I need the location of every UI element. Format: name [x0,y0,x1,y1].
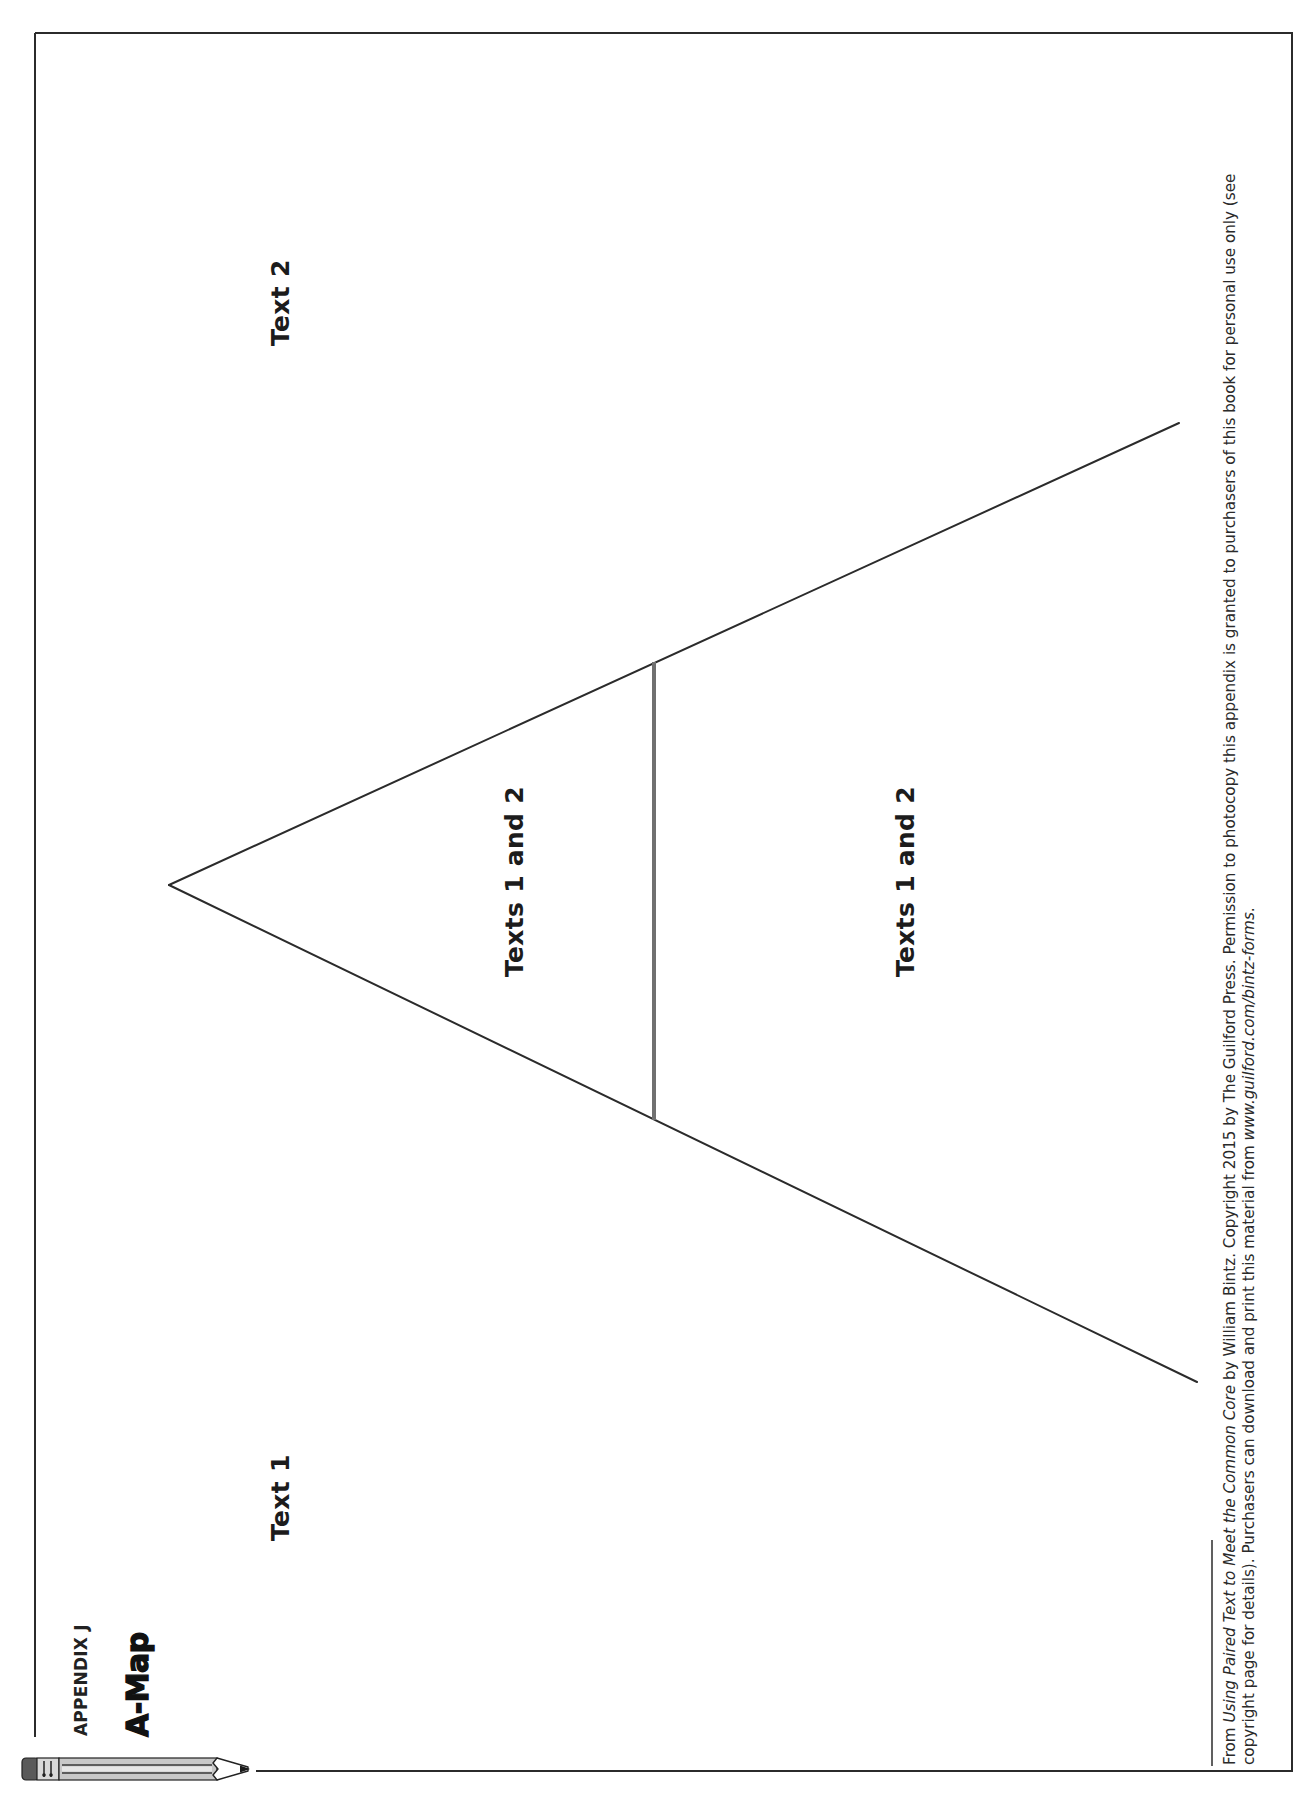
footer-book-title: Using Paired Text to Meet the Common Cor… [1221,1385,1239,1723]
label-texts-1-and-2-outer: Texts 1 and 2 [891,786,920,977]
footer-line2-suffix: . [1240,907,1258,912]
a-map-upper-arm [169,423,1179,885]
footer-copyright-line-1: From Using Paired Text to Meet the Commo… [1221,174,1239,1765]
label-text-2: Text 2 [266,259,295,346]
footer-copyright-line-2: copyright page for details). Purchasers … [1240,907,1258,1765]
a-map-shape [169,423,1197,1382]
label-texts-1-and-2-inner: Texts 1 and 2 [500,786,529,977]
footer-line1-prefix: From [1221,1723,1239,1765]
a-map-lower-arm [169,885,1197,1382]
worksheet-page: APPENDIX J A-Map Text 1 Text 2 Texts 1 a… [0,0,1308,1811]
page-border [35,33,1293,1771]
label-text-1: Text 1 [266,1454,295,1541]
appendix-kicker: APPENDIX J [71,1624,91,1736]
footer-line1-suffix: by William Bintz. Copyright 2015 by The … [1221,174,1239,1385]
pencil-icon [22,1758,250,1780]
diagram-canvas [0,0,1308,1811]
page-title: A-Map [120,1632,155,1737]
footer-download-link[interactable]: www.guilford.com/bintz-forms [1240,912,1258,1140]
footer-line2-prefix: copyright page for details). Purchasers … [1240,1140,1258,1765]
